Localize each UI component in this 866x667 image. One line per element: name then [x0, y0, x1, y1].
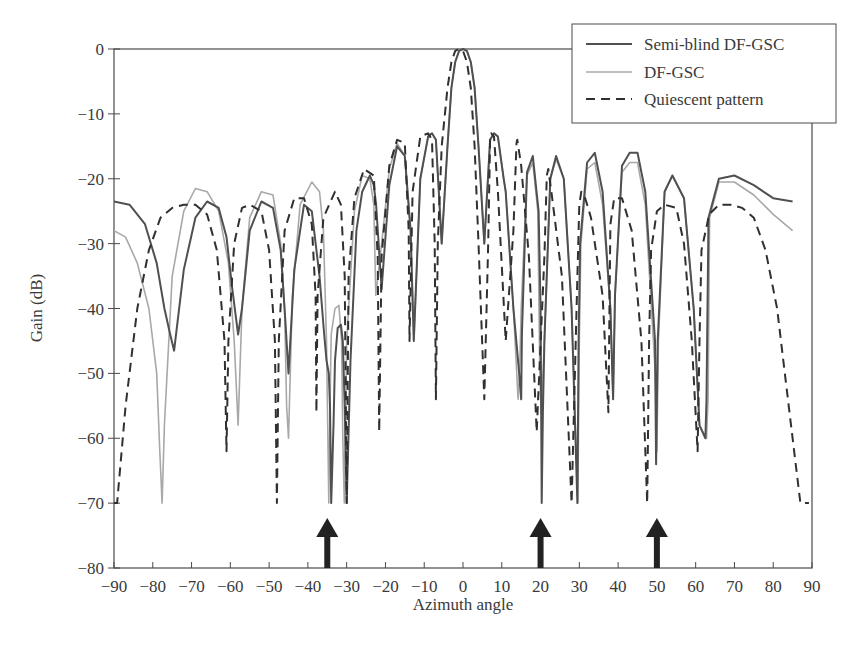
y-tick-label: −20 — [77, 170, 104, 189]
y-tick-label: −10 — [77, 105, 104, 124]
y-tick-label: −50 — [77, 364, 104, 383]
y-tick-label: −40 — [77, 300, 104, 319]
y-tick-label: −60 — [77, 429, 104, 448]
x-tick-label: 30 — [571, 577, 588, 596]
interference-arrow-icon — [646, 518, 668, 568]
legend-label-semi-blind: Semi-blind DF-GSC — [644, 35, 784, 54]
x-tick-label: 20 — [532, 577, 549, 596]
y-tick-label: −30 — [77, 235, 104, 254]
x-tick-label: −10 — [411, 577, 438, 596]
legend-label-quiescent: Quiescent pattern — [644, 90, 764, 109]
x-tick-label: 0 — [459, 577, 468, 596]
gain-pattern-chart: −90−80−70−60−50−40−30−20−100102030405060… — [0, 0, 866, 667]
legend: Semi-blind DF-GSC DF-GSC Quiescent patte… — [572, 24, 836, 123]
x-tick-label: 90 — [804, 577, 821, 596]
x-tick-label: 80 — [765, 577, 782, 596]
x-tick-label: −20 — [372, 577, 399, 596]
interference-arrow-icon — [316, 518, 338, 568]
x-tick-label: −70 — [178, 577, 205, 596]
x-axis-ticks: −90−80−70−60−50−40−30−20−100102030405060… — [101, 562, 821, 596]
x-tick-label: −60 — [217, 577, 244, 596]
y-tick-label: 0 — [96, 40, 105, 59]
x-tick-label: 60 — [687, 577, 704, 596]
interference-arrow-icon — [530, 518, 552, 568]
x-tick-label: −50 — [256, 577, 283, 596]
x-tick-label: −90 — [101, 577, 128, 596]
x-tick-label: −30 — [333, 577, 360, 596]
x-tick-label: 50 — [648, 577, 665, 596]
x-tick-label: 70 — [726, 577, 743, 596]
y-tick-label: −80 — [77, 559, 104, 578]
x-tick-label: 40 — [610, 577, 627, 596]
x-tick-label: 10 — [493, 577, 510, 596]
y-tick-label: −70 — [77, 494, 104, 513]
x-axis-label: Azimuth angle — [413, 595, 514, 614]
y-axis-label: Gain (dB) — [27, 274, 46, 342]
legend-label-df-gsc: DF-GSC — [644, 63, 704, 82]
interference-arrows — [316, 518, 668, 568]
x-tick-label: −80 — [139, 577, 166, 596]
x-tick-label: −40 — [295, 577, 322, 596]
